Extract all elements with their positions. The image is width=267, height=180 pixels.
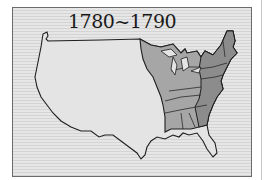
page-edge-divider xyxy=(261,0,262,180)
map-frame: 1780~1790 xyxy=(12,7,252,177)
map-title: 1780~1790 xyxy=(68,10,176,32)
us-map xyxy=(13,8,252,177)
